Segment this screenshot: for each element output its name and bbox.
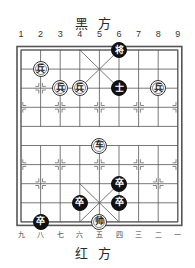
piece-glyph: 卒 — [115, 179, 124, 188]
red-soldier-piece[interactable]: 兵 — [72, 80, 88, 96]
piece-glyph: 兵 — [36, 65, 45, 74]
piece-glyph: 兵 — [154, 84, 163, 93]
black-soldier-piece[interactable]: 卒 — [111, 176, 127, 192]
file-number-bottom: 八 — [35, 229, 47, 239]
file-number-bottom: 三 — [133, 229, 145, 239]
piece-glyph: 兵 — [75, 84, 84, 93]
piece-glyph: 士 — [115, 84, 124, 93]
piece-glyph: 卒 — [75, 198, 84, 207]
black-soldier-piece[interactable]: 卒 — [72, 195, 88, 211]
file-number-bottom: 四 — [113, 229, 125, 239]
piece-glyph: 车 — [95, 141, 104, 150]
piece-glyph: 将 — [115, 46, 124, 55]
red-side-title: 红方 — [0, 243, 195, 262]
file-number-bottom: 一 — [172, 229, 184, 239]
black-soldier-piece[interactable]: 卒 — [33, 214, 49, 230]
black-soldier-piece[interactable]: 卒 — [111, 195, 127, 211]
file-number-bottom: 七 — [54, 229, 66, 239]
file-number-bottom: 五 — [93, 229, 105, 239]
file-number-bottom: 六 — [74, 229, 86, 239]
piece-glyph: 帅 — [95, 217, 104, 226]
piece-glyph: 卒 — [115, 198, 124, 207]
piece-glyph: 兵 — [56, 84, 65, 93]
file-number-bottom: 九 — [15, 229, 27, 239]
red-chariot-piece[interactable]: 车 — [91, 138, 107, 154]
red-soldier-piece[interactable]: 兵 — [33, 61, 49, 77]
piece-glyph: 卒 — [36, 217, 45, 226]
file-number-bottom: 二 — [152, 229, 164, 239]
black-general-piece[interactable]: 将 — [111, 42, 127, 58]
